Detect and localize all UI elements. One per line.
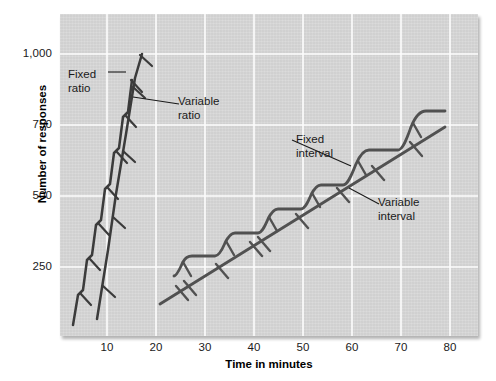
x-tick-label-80: 80 — [435, 341, 465, 353]
reinforcer-mark — [358, 161, 366, 175]
x-tick-label-70: 70 — [386, 341, 416, 353]
cumulative-record-figure: 1,000 750 500 250 10 20 30 40 50 60 70 8… — [0, 0, 496, 381]
annotation-variable-ratio-line2: ratio — [178, 109, 219, 123]
annotation-fixed-interval-line2: interval — [296, 147, 333, 161]
variable-ratio-line — [97, 54, 142, 319]
reinforcer-mark — [113, 217, 125, 228]
reinforcer-mark — [183, 262, 191, 276]
reinforcer-mark — [226, 241, 234, 255]
reinforcer-mark — [269, 217, 277, 231]
annotation-fixed-interval: Fixed interval — [296, 133, 333, 160]
plot-canvas — [60, 14, 478, 336]
y-tick-label-1000: 1,000 — [0, 47, 52, 59]
plot-area — [60, 14, 478, 336]
gridlines — [60, 14, 478, 336]
annotation-variable-ratio-line1: Variable — [178, 95, 219, 109]
fixed-ratio-reinforcer-marks — [80, 80, 142, 305]
annotation-variable-interval: Variable interval — [378, 196, 419, 223]
annotation-fixed-ratio: Fixed ratio — [68, 68, 96, 95]
series-variable-ratio — [97, 54, 152, 319]
x-axis-title: Time in minutes — [60, 358, 478, 370]
annotation-fixed-interval-line1: Fixed — [296, 133, 333, 147]
x-tick-label-60: 60 — [337, 341, 367, 353]
reinforcer-mark — [103, 286, 115, 297]
annotation-variable-ratio: Variable ratio — [178, 95, 219, 122]
annotation-fixed-ratio-line1: Fixed — [68, 68, 96, 82]
y-axis-title: Number of responses — [36, 64, 48, 224]
annotation-variable-interval-line1: Variable — [378, 196, 419, 210]
x-tick-label-50: 50 — [288, 341, 318, 353]
annotation-variable-interval-line2: interval — [378, 210, 419, 224]
reinforcer-mark — [80, 293, 91, 305]
annotation-fixed-ratio-line2: ratio — [68, 82, 96, 96]
reinforcer-mark — [89, 258, 100, 270]
x-tick-label-10: 10 — [92, 341, 122, 353]
x-tick-label-20: 20 — [141, 341, 171, 353]
x-tick-label-40: 40 — [239, 341, 269, 353]
y-tick-label-250: 250 — [0, 260, 52, 272]
reinforcer-mark — [140, 55, 152, 66]
x-tick-label-30: 30 — [190, 341, 220, 353]
